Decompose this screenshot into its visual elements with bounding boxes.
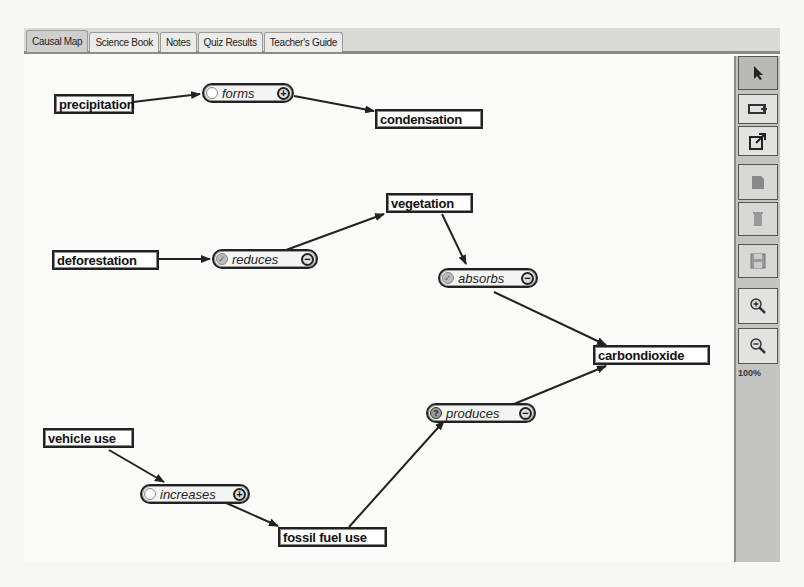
link-label: absorbs: [454, 271, 521, 286]
plus-sign-icon: +: [233, 488, 246, 501]
right-toolbar: 100%: [734, 56, 780, 562]
concept-deforestation[interactable]: deforestation: [52, 250, 159, 270]
edge-reduces-vegetation: [286, 214, 384, 250]
zoom-level: 100%: [738, 368, 761, 378]
edge-vegetation-absorbs: [442, 214, 466, 264]
add-link-icon: [748, 131, 768, 151]
edge-forms-condensation: [294, 96, 374, 111]
tab-science-book[interactable]: Science Book: [89, 32, 159, 52]
zoom-out-icon: [749, 337, 767, 355]
tab-bar: Causal Map Science Book Notes Quiz Resul…: [24, 28, 780, 54]
unverified-circle-icon[interactable]: [206, 87, 218, 99]
delete-button[interactable]: [738, 202, 778, 236]
link-increases[interactable]: increases +: [140, 484, 250, 504]
plus-sign-icon: +: [277, 87, 290, 100]
add-link-button[interactable]: [738, 126, 778, 156]
app-window: Causal Map Science Book Notes Quiz Resul…: [24, 28, 780, 562]
concept-precipitation[interactable]: precipitation: [54, 94, 134, 114]
floppy-icon: [749, 252, 767, 270]
concept-vegetation[interactable]: vegetation: [386, 193, 473, 213]
tab-notes[interactable]: Notes: [160, 32, 197, 52]
map-edges: [24, 54, 734, 562]
edge-precipitation-forms: [133, 94, 200, 102]
concept-vehicle-use[interactable]: vehicle use: [43, 428, 134, 448]
tab-causal-map[interactable]: Causal Map: [26, 30, 88, 52]
zoom-in-button[interactable]: [738, 288, 778, 324]
question-mark-icon[interactable]: ?: [430, 407, 442, 419]
edit-button[interactable]: [738, 164, 778, 200]
minus-sign-icon: −: [519, 407, 532, 420]
edit-icon: [749, 173, 767, 191]
minus-sign-icon: −: [301, 253, 314, 266]
link-label: forms: [218, 86, 277, 101]
link-absorbs[interactable]: ✓ absorbs −: [438, 268, 538, 288]
tab-teachers-guide[interactable]: Teacher's Guide: [264, 32, 343, 52]
concept-condensation[interactable]: condensation: [375, 109, 483, 129]
tab-quiz-results[interactable]: Quiz Results: [198, 32, 263, 52]
add-concept-button[interactable]: [738, 94, 778, 124]
trash-icon: [751, 210, 765, 228]
arrow-pointer-icon: [751, 65, 765, 81]
link-produces[interactable]: ? produces −: [426, 403, 536, 423]
checkmark-icon[interactable]: ✓: [442, 272, 454, 284]
save-button[interactable]: [738, 244, 778, 278]
link-reduces[interactable]: ✓ reduces −: [212, 249, 318, 269]
edge-vehicle-increases: [109, 450, 164, 482]
link-label: increases: [156, 487, 233, 502]
edge-absorbs-carbondioxide: [494, 292, 606, 345]
link-label: reduces: [228, 252, 301, 267]
zoom-out-button[interactable]: [738, 328, 778, 364]
add-concept-icon: [747, 102, 769, 116]
minus-sign-icon: −: [521, 272, 534, 285]
concept-fossil-fuel-use[interactable]: fossil fuel use: [278, 527, 387, 547]
checkmark-icon[interactable]: ✓: [216, 253, 228, 265]
edge-produces-carbondioxide: [514, 366, 606, 404]
edge-increases-fossilfuel: [224, 502, 278, 526]
causal-map-canvas[interactable]: precipitation condensation deforestation…: [24, 54, 734, 562]
zoom-in-icon: [749, 297, 767, 315]
edge-fossilfuel-produces: [349, 421, 444, 527]
select-tool-button[interactable]: [738, 56, 778, 90]
unverified-circle-icon[interactable]: [144, 488, 156, 500]
link-label: produces: [442, 406, 519, 421]
link-forms[interactable]: forms +: [202, 83, 294, 103]
concept-carbondioxide[interactable]: carbondioxide: [593, 345, 710, 365]
